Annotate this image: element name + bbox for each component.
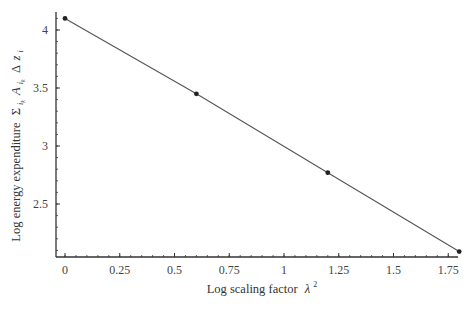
y-tick-label: 3 — [42, 139, 48, 153]
y-axis-label: Log energy expenditure Σ ik A ik Δ z i — [9, 50, 28, 241]
x-tick-label: 1 — [281, 263, 287, 277]
x-tick-label: 1.25 — [328, 263, 349, 277]
x-tick-label: 1.5 — [386, 263, 401, 277]
series-line — [65, 18, 459, 251]
data-series — [63, 16, 462, 254]
x-tick-label: 0.75 — [219, 263, 240, 277]
data-point-marker — [325, 170, 330, 175]
y-tick-label: 3.5 — [33, 81, 48, 95]
data-point-marker — [457, 249, 462, 254]
x-tick-label: 0.25 — [109, 263, 130, 277]
axes — [56, 12, 458, 257]
x-axis-label: Log scaling factor λ 2 — [207, 280, 318, 296]
data-point-marker — [63, 16, 68, 21]
x-tick-label: 1.75 — [438, 263, 459, 277]
y-tick-label: 2.5 — [33, 197, 48, 211]
data-point-marker — [194, 91, 199, 96]
x-tick-label: 0 — [62, 263, 68, 277]
x-tick-label: 0.5 — [167, 263, 182, 277]
chart: 00.250.50.7511.251.51.75 2.533.54 Log sc… — [0, 0, 467, 311]
y-tick-label: 4 — [42, 23, 48, 37]
